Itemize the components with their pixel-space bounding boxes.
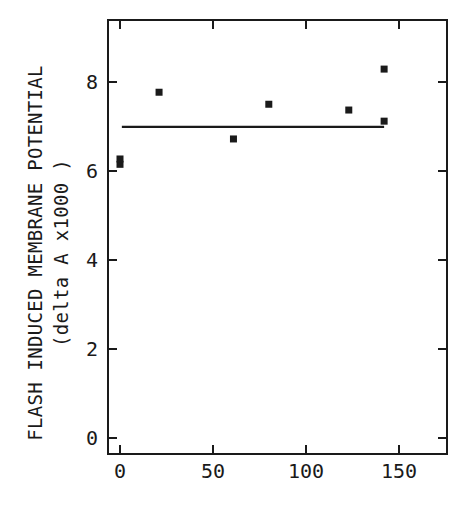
y-tick-label: 0 bbox=[86, 426, 98, 450]
data-point-marker bbox=[381, 66, 388, 73]
scatter-chart: 050100150 02468 FLASH INDUCED MEMBRANE P… bbox=[0, 0, 457, 506]
x-tick-label: 150 bbox=[381, 459, 417, 483]
y-axis-label: FLASH INDUCED MEMBRANE POTENTIAL (delta … bbox=[24, 65, 72, 441]
data-point-marker bbox=[117, 155, 124, 162]
plot-frame bbox=[108, 20, 447, 454]
y-axis-label-line2: (delta A x1000 ) bbox=[50, 159, 72, 347]
x-tick-label: 100 bbox=[288, 459, 324, 483]
data-point-marker bbox=[230, 135, 237, 142]
y-tick-label: 8 bbox=[86, 70, 98, 94]
data-point-marker bbox=[265, 101, 272, 108]
x-tick-label: 0 bbox=[114, 459, 126, 483]
data-point-marker bbox=[381, 118, 388, 125]
data-point-marker bbox=[156, 89, 163, 96]
y-axis-label-line1: FLASH INDUCED MEMBRANE POTENTIAL bbox=[24, 65, 46, 441]
chart-canvas: 050100150 02468 FLASH INDUCED MEMBRANE P… bbox=[0, 0, 457, 506]
x-tick-label: 50 bbox=[201, 459, 225, 483]
y-tick-label: 4 bbox=[86, 248, 98, 272]
y-tick-label: 2 bbox=[86, 337, 98, 361]
y-tick-label: 6 bbox=[86, 159, 98, 183]
data-point-marker bbox=[345, 107, 352, 114]
data-points bbox=[117, 66, 388, 168]
